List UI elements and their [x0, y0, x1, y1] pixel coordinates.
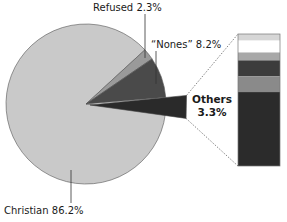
- others-bar-segment-6: [238, 92, 280, 166]
- label-others-name: Others: [192, 93, 232, 105]
- others-bar-segment-3: [238, 52, 280, 60]
- others-bar-segment-4: [238, 60, 280, 76]
- pie-chart: Refused 2.3% “Nones” 8.2% Christian 86.2…: [0, 0, 287, 222]
- zoom-connector-bottom: [186, 118, 238, 166]
- others-bar-segment-2: [238, 41, 280, 53]
- others-bar-segment-5: [238, 76, 280, 92]
- label-christian: Christian 86.2%: [4, 205, 84, 216]
- label-nones: “Nones” 8.2%: [151, 39, 221, 50]
- label-others-value: 3.3%: [197, 106, 227, 118]
- label-refused: Refused 2.3%: [93, 2, 162, 13]
- others-bar-segment-1: [238, 34, 280, 41]
